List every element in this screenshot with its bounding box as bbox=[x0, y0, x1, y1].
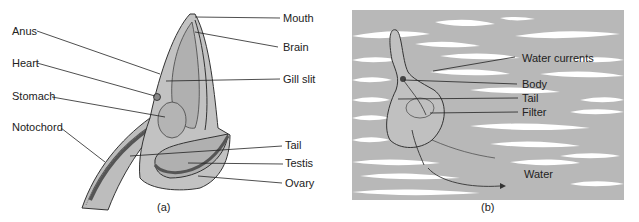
label-stomach: Stomach bbox=[12, 90, 55, 102]
label-testis: Testis bbox=[285, 157, 313, 169]
label-heart: Heart bbox=[12, 57, 39, 69]
water-currents-drawing bbox=[320, 0, 639, 222]
larva-anatomy-drawing bbox=[0, 0, 320, 222]
label-mouth: Mouth bbox=[283, 12, 314, 24]
label-body: Body bbox=[522, 78, 547, 90]
label-water-currents: Water currents bbox=[522, 52, 594, 64]
label-gill-slit: Gill slit bbox=[283, 73, 315, 85]
panel-b-filter-feeding: Water currents Body Tail Filter Water (b… bbox=[320, 0, 639, 222]
panel-a-larva-anatomy: Anus Heart Stomach Notochord Mouth Brain… bbox=[0, 0, 320, 222]
label-tail-b: Tail bbox=[522, 92, 539, 104]
label-filter: Filter bbox=[522, 106, 546, 118]
label-anus: Anus bbox=[12, 25, 37, 37]
label-notochord: Notochord bbox=[12, 121, 63, 133]
label-brain: Brain bbox=[283, 41, 309, 53]
caption-a: (a) bbox=[157, 201, 170, 213]
label-ovary: Ovary bbox=[285, 177, 314, 189]
label-tail: Tail bbox=[285, 139, 302, 151]
label-water: Water bbox=[524, 168, 553, 180]
caption-b: (b) bbox=[481, 201, 494, 213]
